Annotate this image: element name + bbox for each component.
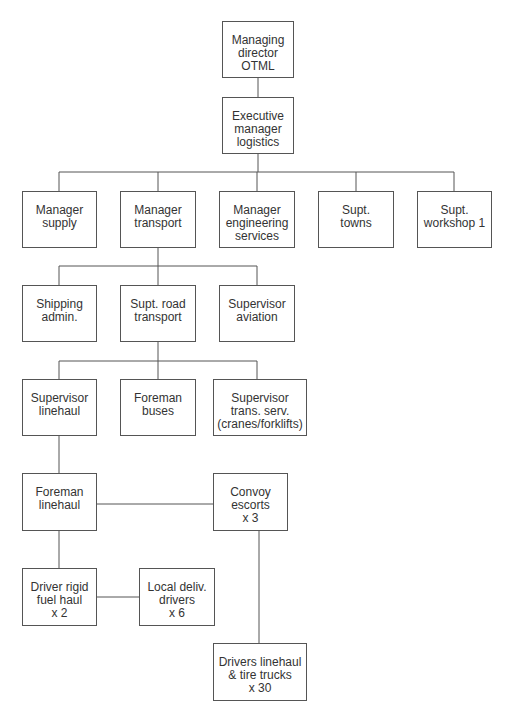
node-foreman-buses: Foreman buses [120, 379, 196, 436]
node-manager-transport: Manager transport [120, 191, 196, 248]
node-label: Shipping admin. [36, 298, 83, 324]
node-executive-manager-logistics: Executive manager logistics [222, 97, 294, 154]
node-label: Manager supply [36, 204, 83, 230]
node-driver-rigid-fuel-haul: Driver rigid fuel haul x 2 [22, 568, 97, 626]
node-label: Convoy escorts x 3 [230, 486, 271, 525]
node-supervisor-trans-serv: Supervisor trans. serv. (cranes/forklift… [213, 379, 307, 436]
node-foreman-linehaul: Foreman linehaul [22, 473, 97, 531]
node-manager-engineering-services: Manager engineering services [219, 191, 295, 248]
node-supt-road-transport: Supt. road transport [120, 285, 196, 342]
node-supervisor-aviation: Supervisor aviation [219, 285, 295, 342]
node-label: Supervisor trans. serv. (cranes/forklift… [217, 392, 302, 431]
node-manager-supply: Manager supply [22, 191, 97, 248]
node-drivers-linehaul-tire-trucks: Drivers linehaul & tire trucks x 30 [213, 643, 307, 701]
node-shipping-admin: Shipping admin. [22, 285, 97, 342]
node-supervisor-linehaul: Supervisor linehaul [22, 379, 97, 436]
node-supt-towns: Supt. towns [318, 191, 394, 248]
node-convoy-escorts: Convoy escorts x 3 [213, 473, 288, 531]
node-label: Manager transport [134, 204, 181, 230]
node-label: Supt. towns [340, 204, 371, 230]
node-label: Foreman linehaul [35, 486, 83, 512]
node-label: Foreman buses [134, 392, 182, 418]
org-chart: Managing director OTML Executive manager… [0, 0, 515, 722]
node-label: Supt. workshop 1 [424, 204, 485, 230]
node-label: Supt. road transport [130, 298, 185, 324]
node-label: Managing director OTML [232, 34, 285, 73]
node-managing-director: Managing director OTML [222, 21, 294, 78]
node-label: Drivers linehaul & tire trucks x 30 [219, 656, 302, 695]
node-local-deliv-drivers: Local deliv. drivers x 6 [139, 568, 215, 626]
node-supt-workshop-1: Supt. workshop 1 [417, 191, 492, 248]
node-label: Supervisor aviation [228, 298, 285, 324]
node-label: Supervisor linehaul [31, 392, 88, 418]
node-label: Executive manager logistics [232, 110, 284, 149]
node-label: Manager engineering services [226, 204, 289, 243]
node-label: Local deliv. drivers x 6 [147, 581, 206, 620]
node-label: Driver rigid fuel haul x 2 [30, 581, 88, 620]
